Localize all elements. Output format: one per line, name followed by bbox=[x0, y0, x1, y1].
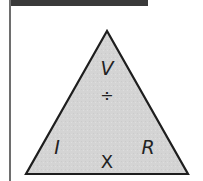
divide-symbol: ÷ bbox=[100, 86, 113, 105]
formula-triangle-diagram: V ÷ I R X bbox=[0, 0, 203, 181]
label-voltage: V bbox=[101, 57, 116, 79]
label-resistance: R bbox=[141, 136, 154, 158]
label-current: I bbox=[54, 136, 60, 158]
multiply-symbol: X bbox=[101, 151, 113, 172]
